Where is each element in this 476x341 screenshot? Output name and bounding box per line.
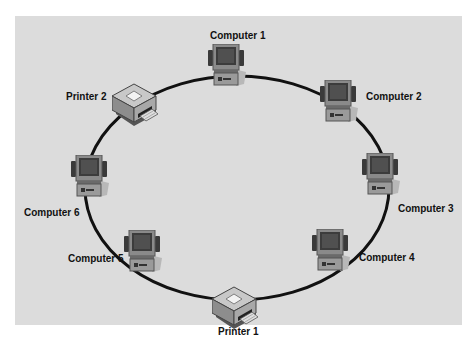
node-label-computer-6: Computer 6: [24, 207, 80, 218]
computer-icon: [208, 44, 248, 90]
printer-icon: [112, 80, 160, 128]
node-label-printer-1: Printer 1: [218, 326, 259, 337]
computer-icon: [312, 229, 352, 275]
computer-icon: [71, 155, 111, 201]
computer-icon: [362, 153, 402, 199]
node-label-computer-3: Computer 3: [398, 203, 454, 214]
computer-icon: [124, 230, 164, 276]
node-label-printer-2: Printer 2: [66, 91, 107, 102]
printer-icon: [212, 283, 260, 331]
node-label-computer-4: Computer 4: [359, 252, 415, 263]
node-label-computer-5: Computer 5: [68, 253, 124, 264]
node-label-computer-2: Computer 2: [366, 91, 422, 102]
computer-icon: [320, 80, 360, 126]
node-label-computer-1: Computer 1: [210, 30, 266, 41]
